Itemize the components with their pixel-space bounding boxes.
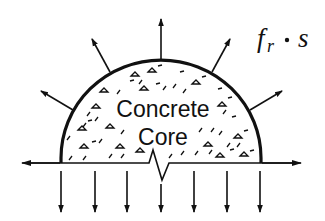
radial-arrow-right — [250, 91, 282, 110]
formula-label: f r s — [257, 23, 309, 56]
radial-arrow-upper-left — [92, 39, 110, 72]
baseline — [30, 150, 292, 180]
core-label-line1: Concrete — [116, 96, 209, 122]
formula-subscript-r: r — [267, 36, 275, 56]
formula-dot — [285, 38, 289, 42]
core-label-line2: Core — [138, 124, 188, 150]
radial-arrow-left — [41, 91, 73, 110]
formula-s: s — [298, 23, 309, 53]
concrete-core-diagram: Concrete Core f r s — [0, 0, 325, 221]
radial-arrow-upper-right — [212, 39, 230, 72]
